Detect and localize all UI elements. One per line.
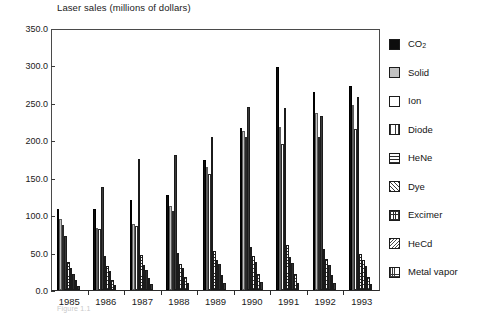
bar-diode-1993 [357, 97, 360, 290]
y-tick-label: 100.0 [25, 211, 48, 221]
bar-excimer-1993 [365, 266, 368, 290]
legend-item-dye[interactable]: Dye [389, 180, 425, 194]
legend-label: CO2 [408, 39, 426, 49]
y-tick-mark [51, 291, 55, 292]
x-tick-mark [234, 291, 235, 295]
legend-swatch-icon [389, 267, 400, 278]
x-tick-label-1988: 1988 [168, 296, 189, 307]
bar-excimer-1986 [109, 271, 112, 290]
bar-hene-1989 [213, 251, 216, 290]
bar-diode-1989 [211, 137, 214, 290]
legend-label: Dye [408, 182, 425, 192]
legend-item-ion[interactable]: Ion [389, 94, 421, 108]
bar-ion-1992 [318, 137, 321, 290]
legend-swatch-icon [389, 153, 400, 164]
bar-dye-1993 [362, 260, 365, 290]
bar-hecd-1987 [148, 278, 151, 290]
legend-item-excimer[interactable]: Excimer [389, 208, 442, 222]
bar-dye-1987 [143, 265, 146, 290]
x-tick-mark [124, 291, 125, 295]
legend-label: Metal vapor [408, 267, 458, 277]
legend-label: HeNe [408, 153, 432, 163]
y-tick-label: 0.0 [35, 286, 48, 296]
bar-co2-1987 [130, 200, 133, 290]
bar-hene-1988 [177, 253, 180, 290]
chart-legend: CO2SolidIonDiodeHeNeDyeExcimerHeCdMetal … [389, 29, 485, 291]
bar-dye-1988 [179, 264, 182, 290]
bars-layer [52, 30, 379, 290]
bar-hene-1987 [140, 255, 143, 290]
y-tick-label: 350.0 [25, 24, 48, 34]
bar-co2-1989 [203, 160, 206, 290]
bar-ion-1988 [172, 211, 175, 290]
y-tick-label: 200.0 [25, 136, 48, 146]
bar-excimer-1992 [328, 265, 331, 290]
bar-co2-1993 [349, 86, 352, 290]
x-tick-label-1989: 1989 [205, 296, 226, 307]
bar-hecd-1989 [221, 275, 224, 290]
bar-solid-1991 [279, 127, 282, 290]
bar-diode-1988 [174, 155, 177, 290]
legend-item-hecd[interactable]: HeCd [389, 237, 432, 251]
bar-hecd-1990 [257, 274, 260, 290]
bar-excimer-1988 [182, 268, 185, 290]
bar-metal-vapor-1993 [370, 284, 373, 290]
legend-item-co[interactable]: CO2 [389, 37, 426, 51]
bar-co2-1991 [276, 67, 279, 290]
legend-label: Ion [408, 96, 421, 106]
bar-solid-1993 [352, 105, 355, 290]
bar-metal-vapor-1991 [297, 283, 300, 290]
bar-dye-1989 [216, 260, 219, 290]
bar-co2-1992 [313, 92, 316, 290]
x-tick-mark [270, 291, 271, 295]
bar-co2-1985 [57, 209, 60, 290]
bar-dye-1986 [106, 266, 109, 290]
y-axis-labels: 0.050.0100.0150.0200.0250.0300.0350.0 [0, 0, 48, 316]
x-tick-label-1990: 1990 [241, 296, 262, 307]
y-tick-mark [51, 141, 55, 142]
legend-label: Excimer [408, 210, 442, 220]
x-tick-label-1987: 1987 [132, 296, 153, 307]
bar-co2-1986 [93, 209, 96, 290]
bar-hecd-1986 [111, 280, 114, 290]
legend-item-metal-vapor[interactable]: Metal vapor [389, 265, 458, 279]
legend-label: Diode [408, 125, 433, 135]
bar-excimer-1991 [291, 263, 294, 290]
bar-excimer-1985 [72, 274, 75, 290]
bar-dye-1992 [325, 259, 328, 290]
x-tick-label-1986: 1986 [95, 296, 116, 307]
bar-metal-vapor-1988 [187, 283, 190, 290]
bar-excimer-1987 [145, 270, 148, 290]
bar-ion-1993 [354, 129, 357, 290]
bar-ion-1987 [135, 226, 138, 290]
x-tick-mark [161, 291, 162, 295]
chart-page: Laser sales (millions of dollars) 0.050.… [0, 0, 487, 316]
legend-item-hene[interactable]: HeNe [389, 151, 432, 165]
bar-ion-1989 [208, 174, 211, 290]
x-tick-mark [343, 291, 344, 295]
bar-metal-vapor-1990 [260, 282, 263, 290]
x-tick-label-1992: 1992 [315, 296, 336, 307]
legend-swatch-icon [389, 181, 400, 192]
bar-diode-1985 [64, 236, 67, 290]
bar-hecd-1985 [75, 280, 78, 290]
y-tick-label: 300.0 [25, 61, 48, 71]
bar-hene-1990 [250, 247, 253, 290]
bar-ion-1990 [245, 137, 248, 290]
figure-caption: Figure 1.1 [57, 305, 91, 312]
bar-metal-vapor-1987 [150, 284, 153, 290]
y-tick-mark [51, 254, 55, 255]
bar-hene-1985 [67, 262, 70, 290]
y-tick-label: 150.0 [25, 174, 48, 184]
chart-title: Laser sales (millions of dollars) [57, 2, 191, 13]
y-tick-mark [51, 216, 55, 217]
y-tick-mark [51, 104, 55, 105]
bar-diode-1990 [247, 107, 250, 290]
legend-item-diode[interactable]: Diode [389, 123, 433, 137]
legend-swatch-icon [389, 39, 400, 50]
bar-hecd-1992 [331, 275, 334, 290]
x-tick-mark [197, 291, 198, 295]
bar-ion-1991 [281, 144, 284, 290]
x-tick-label-1991: 1991 [278, 296, 299, 307]
legend-item-solid[interactable]: Solid [389, 66, 429, 80]
